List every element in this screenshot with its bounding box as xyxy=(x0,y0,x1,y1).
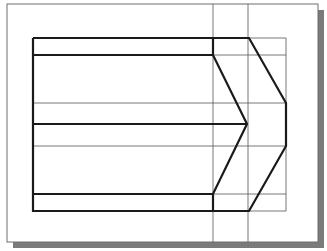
drawing-canvas xyxy=(0,0,327,251)
